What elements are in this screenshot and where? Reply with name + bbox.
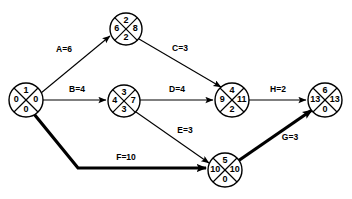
- node-5-event-number: 5: [222, 155, 227, 165]
- node-3-latest-time: 7: [131, 95, 136, 105]
- node-4-earliest-time: 9: [220, 94, 225, 104]
- node-2-event-number: 2: [123, 15, 128, 25]
- node-event-2: 2682: [110, 13, 142, 45]
- edge-label-d: D=4: [169, 84, 185, 94]
- node-1-slack-time: 0: [23, 104, 28, 114]
- node-2-earliest-time: 6: [114, 23, 119, 33]
- node-2-slack-time: 2: [123, 32, 128, 42]
- node-3-event-number: 3: [121, 87, 126, 97]
- node-event-3: 3473: [108, 85, 140, 117]
- node-4-slack-time: 2: [229, 104, 234, 114]
- node-1-earliest-time: 0: [14, 94, 19, 104]
- node-event-4: 49112: [215, 83, 249, 117]
- node-2-latest-time: 8: [133, 23, 138, 33]
- node-3-earliest-time: 4: [112, 95, 117, 105]
- edge-label-c: C=3: [172, 43, 188, 53]
- edges-layer: [34, 36, 312, 168]
- node-event-5: 510100: [208, 153, 242, 187]
- node-6-slack-time: 0: [322, 104, 327, 114]
- edge-label-e: E=3: [177, 125, 193, 135]
- node-6-latest-time: 13: [330, 94, 340, 104]
- node-5-slack-time: 0: [222, 174, 227, 184]
- node-5-earliest-time: 10: [210, 164, 220, 174]
- edge-g: [238, 110, 312, 161]
- node-4-latest-time: 11: [237, 94, 247, 104]
- edge-label-f: F=10: [116, 152, 136, 162]
- node-6-event-number: 6: [322, 85, 327, 95]
- node-5-latest-time: 10: [230, 164, 240, 174]
- network-diagram: 10002682347349112510100613130 A=6B=4C=3D…: [0, 0, 352, 199]
- node-3-slack-time: 3: [121, 104, 126, 114]
- edge-label-a: A=6: [56, 44, 72, 54]
- node-event-1: 1000: [9, 83, 43, 117]
- node-6-earliest-time: 13: [310, 94, 320, 104]
- network-diagram-canvas: 10002682347349112510100613130 A=6B=4C=3D…: [0, 0, 352, 199]
- edge-e: [136, 112, 209, 163]
- node-event-6: 613130: [308, 83, 342, 117]
- edge-label-b: B=4: [69, 84, 85, 94]
- node-4-event-number: 4: [229, 85, 234, 95]
- node-1-event-number: 1: [23, 85, 28, 95]
- edge-label-g: G=3: [282, 132, 299, 142]
- edge-label-h: H=2: [270, 84, 286, 94]
- node-1-latest-time: 0: [33, 94, 38, 104]
